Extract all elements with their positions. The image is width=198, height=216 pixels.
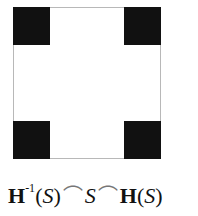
corner-block-top-left: [13, 7, 50, 45]
inverse-exponent: -1: [25, 181, 35, 195]
corner-block-top-right: [124, 7, 161, 45]
s-symbol: S: [42, 183, 53, 208]
paren: ): [53, 183, 60, 208]
h-symbol: H: [120, 183, 137, 208]
formula: H-1(S)⌒S⌒H(S): [8, 180, 198, 209]
corner-block-bottom-right: [124, 121, 161, 159]
paren: ): [155, 183, 162, 208]
s-symbol: S: [144, 183, 155, 208]
corner-block-bottom-left: [13, 121, 50, 159]
s-symbol: S: [85, 183, 96, 208]
intersection-symbol: ⌒: [63, 180, 83, 209]
h-symbol: H: [8, 183, 25, 208]
intersection-symbol: ⌒: [98, 180, 118, 209]
